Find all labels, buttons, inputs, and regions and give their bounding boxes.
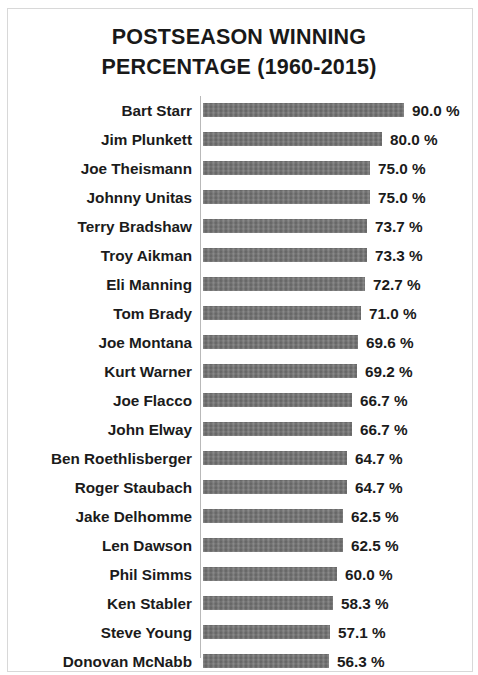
category-label: John Elway (0, 415, 192, 444)
bar (203, 132, 382, 146)
category-label: Kurt Warner (0, 357, 192, 386)
bar (203, 480, 347, 494)
value-label: 64.7 % (355, 444, 403, 473)
value-label: 80.0 % (390, 125, 438, 154)
category-label: Tom Brady (0, 299, 192, 328)
bar (203, 567, 337, 581)
value-label: 69.6 % (366, 328, 414, 357)
bar-row: Terry Bradshaw73.7 % (0, 212, 478, 241)
chart-title-line-2: PERCENTAGE (1960-2015) (0, 52, 478, 82)
bar (203, 538, 343, 552)
bar (203, 277, 365, 291)
chart-figure: POSTSEASON WINNING PERCENTAGE (1960-2015… (0, 0, 478, 675)
category-label: Jake Delhomme (0, 502, 192, 531)
bar-row: Troy Aikman73.3 % (0, 241, 478, 270)
bar (203, 306, 361, 320)
category-label: Jim Plunkett (0, 125, 192, 154)
value-label: 73.3 % (375, 241, 423, 270)
category-label: Terry Bradshaw (0, 212, 192, 241)
bar (203, 190, 370, 204)
category-label: Donovan McNabb (0, 647, 192, 675)
bar-row: Johnny Unitas75.0 % (0, 183, 478, 212)
category-label: Eli Manning (0, 270, 192, 299)
bar (203, 625, 330, 639)
value-label: 64.7 % (355, 473, 403, 502)
bar-row: Eli Manning72.7 % (0, 270, 478, 299)
category-label: Joe Theismann (0, 154, 192, 183)
value-label: 56.3 % (337, 647, 385, 675)
category-label: Joe Montana (0, 328, 192, 357)
bar-row: Len Dawson62.5 % (0, 531, 478, 560)
bar (203, 219, 367, 233)
bar (203, 393, 352, 407)
bar-row: Joe Theismann75.0 % (0, 154, 478, 183)
category-label: Bart Starr (0, 96, 192, 125)
value-label: 69.2 % (365, 357, 413, 386)
chart-title-line-1: POSTSEASON WINNING (0, 22, 478, 52)
bar-row: Ben Roethlisberger64.7 % (0, 444, 478, 473)
category-label: Phil Simms (0, 560, 192, 589)
category-label: Len Dawson (0, 531, 192, 560)
category-label: Ben Roethlisberger (0, 444, 192, 473)
bar (203, 596, 333, 610)
bar (203, 422, 352, 436)
bar-row: Phil Simms60.0 % (0, 560, 478, 589)
category-label: Johnny Unitas (0, 183, 192, 212)
bar-row: Roger Staubach64.7 % (0, 473, 478, 502)
category-label: Ken Stabler (0, 589, 192, 618)
value-label: 57.1 % (338, 618, 386, 647)
value-label: 72.7 % (373, 270, 421, 299)
bar-row: Jake Delhomme62.5 % (0, 502, 478, 531)
value-label: 58.3 % (341, 589, 389, 618)
bar-row: Joe Flacco66.7 % (0, 386, 478, 415)
value-label: 75.0 % (378, 183, 426, 212)
bar-row: Donovan McNabb56.3 % (0, 647, 478, 675)
bar (203, 103, 404, 117)
bar (203, 248, 367, 262)
bar-row: Bart Starr90.0 % (0, 96, 478, 125)
value-label: 75.0 % (378, 154, 426, 183)
category-label: Joe Flacco (0, 386, 192, 415)
value-label: 90.0 % (412, 96, 460, 125)
bar-row: Joe Montana69.6 % (0, 328, 478, 357)
category-label: Troy Aikman (0, 241, 192, 270)
bar-row: Kurt Warner69.2 % (0, 357, 478, 386)
bar (203, 335, 358, 349)
bar-row: Jim Plunkett80.0 % (0, 125, 478, 154)
plot-area: Bart Starr90.0 %Jim Plunkett80.0 %Joe Th… (0, 96, 478, 662)
category-label: Steve Young (0, 618, 192, 647)
bar-row: Ken Stabler58.3 % (0, 589, 478, 618)
value-label: 71.0 % (369, 299, 417, 328)
bar-row: John Elway66.7 % (0, 415, 478, 444)
bar (203, 364, 357, 378)
value-label: 62.5 % (351, 531, 399, 560)
bar (203, 451, 347, 465)
bar (203, 654, 329, 668)
bar-row: Tom Brady71.0 % (0, 299, 478, 328)
bar-row: Steve Young57.1 % (0, 618, 478, 647)
bar (203, 161, 370, 175)
chart-title: POSTSEASON WINNING PERCENTAGE (1960-2015… (0, 22, 478, 82)
value-label: 73.7 % (375, 212, 423, 241)
category-label: Roger Staubach (0, 473, 192, 502)
value-label: 60.0 % (345, 560, 393, 589)
value-label: 66.7 % (360, 386, 408, 415)
value-label: 66.7 % (360, 415, 408, 444)
bar (203, 509, 343, 523)
value-label: 62.5 % (351, 502, 399, 531)
